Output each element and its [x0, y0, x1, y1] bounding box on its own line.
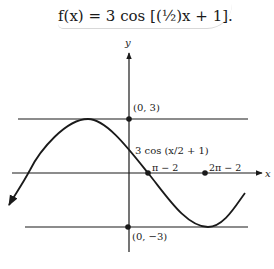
point-0-3	[126, 116, 132, 122]
bottom-point-label: (0, −3)	[132, 231, 167, 242]
point-2pi-minus-2	[202, 170, 208, 176]
cosine-graph: y x (0, 3) (0, −3) 3 cos (x/2 + 1) π − 2…	[0, 0, 274, 269]
second-label: 2π − 2	[209, 162, 241, 173]
top-point-label: (0, 3)	[133, 102, 160, 113]
y-axis-label: y	[124, 37, 131, 48]
curve-label: 3 cos (x/2 + 1)	[135, 145, 209, 156]
point-0-neg3	[125, 224, 131, 230]
x-axis-label: x	[265, 168, 271, 179]
zero-label: π − 2	[152, 162, 178, 173]
point-pi-minus-2	[145, 170, 151, 176]
